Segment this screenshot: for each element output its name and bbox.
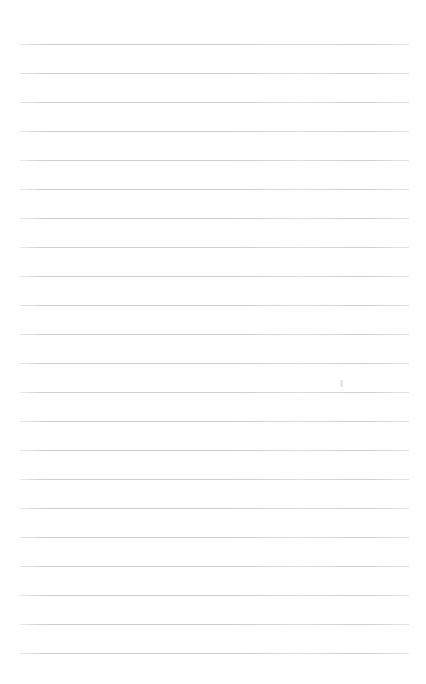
rule-line — [20, 276, 409, 277]
rule-line — [20, 653, 409, 654]
rule-line — [20, 566, 409, 567]
rule-line — [20, 131, 409, 132]
stray-pencil-mark — [340, 380, 343, 387]
rule-line — [20, 189, 409, 190]
rule-line — [20, 160, 409, 161]
rule-line — [20, 334, 409, 335]
rule-line — [20, 595, 409, 596]
rule-line — [20, 247, 409, 248]
rule-line — [20, 392, 409, 393]
rule-line — [20, 73, 409, 74]
rule-line — [20, 305, 409, 306]
rule-line — [20, 44, 409, 45]
rule-line — [20, 479, 409, 480]
rule-line — [20, 508, 409, 509]
rule-line — [20, 218, 409, 219]
rule-line — [20, 624, 409, 625]
rule-line — [20, 363, 409, 364]
rule-line — [20, 421, 409, 422]
notebook-page — [0, 0, 426, 684]
rule-line — [20, 450, 409, 451]
rule-line — [20, 537, 409, 538]
ruled-writing-area[interactable] — [0, 0, 426, 684]
rule-line — [20, 102, 409, 103]
